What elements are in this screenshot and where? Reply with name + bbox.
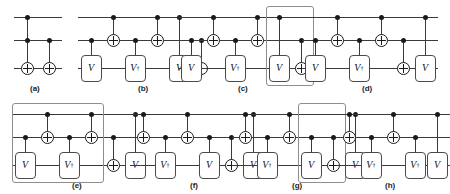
gate-box-v-dagger: V†: [125, 55, 146, 82]
control-dot: [369, 135, 374, 140]
cnot-target-icon: [251, 34, 264, 47]
control-dot: [163, 135, 168, 140]
control-dot: [185, 112, 190, 117]
control-dot: [357, 38, 362, 43]
control-dot: [89, 112, 94, 117]
control-dot: [391, 112, 396, 117]
control-dot: [309, 135, 314, 140]
cnot-target-icon: [137, 131, 150, 144]
control-dot: [287, 112, 292, 117]
cnot-target-icon: [331, 34, 344, 47]
control-dot: [189, 38, 194, 43]
circuit-panel-h: V†V†V(h): [336, 97, 450, 194]
circuit-panel-a: (a): [14, 0, 62, 97]
control-dot: [423, 15, 428, 20]
gate-box-v-dagger: V†: [155, 152, 176, 179]
gate-box-v-dagger: V†: [361, 152, 382, 179]
gate-box-v: V: [81, 55, 102, 82]
gate-box-v: V: [269, 55, 290, 82]
control-dot: [335, 15, 340, 20]
control-dot: [23, 135, 28, 140]
cnot-target-icon: [397, 62, 410, 75]
cnot-target-icon: [239, 131, 252, 144]
panel-caption-a: (a): [30, 84, 40, 93]
panel-caption-f: (f): [190, 181, 198, 190]
control-dot: [133, 38, 138, 43]
control-dot: [347, 112, 352, 117]
control-dot: [401, 38, 406, 43]
qubit-wire-1: [14, 17, 62, 18]
qubit-wire-2: [302, 40, 438, 41]
cnot-target-icon: [151, 34, 164, 47]
gate-box-v: V: [15, 152, 36, 179]
gate-box-v-dagger: V†: [225, 55, 246, 82]
control-dot: [141, 112, 146, 117]
control-dot: [277, 15, 282, 20]
control-dot: [155, 15, 160, 20]
control-dot: [243, 112, 248, 117]
control-dot: [255, 15, 260, 20]
control-dot: [233, 38, 238, 43]
cnot-target-icon: [207, 34, 220, 47]
gate-box-v-dagger: V†: [349, 55, 370, 82]
control-dot: [111, 135, 116, 140]
control-dot: [89, 38, 94, 43]
cnot-target-icon: [41, 131, 54, 144]
cnot-target-icon: [181, 131, 194, 144]
circuit-panel-e: VV†V(e): [12, 97, 148, 194]
circuit-panel-c: VV†V(c): [178, 0, 314, 97]
control-dot: [47, 38, 52, 43]
gate-box-v: V: [427, 152, 448, 179]
control-dot: [313, 38, 318, 43]
cnot-target-icon: [107, 34, 120, 47]
gate-box-v: V: [199, 152, 220, 179]
control-dot: [207, 135, 212, 140]
control-dot: [265, 135, 270, 140]
cnot-target-icon: [107, 159, 120, 172]
cnot-target-icon: [283, 131, 296, 144]
control-dot: [413, 135, 418, 140]
control-dot: [111, 15, 116, 20]
gate-box-v: V: [301, 152, 322, 179]
gate-box-v: V: [415, 55, 436, 82]
control-dot: [25, 38, 30, 43]
control-dot: [25, 15, 30, 20]
circuit-row-top: (a)VV†V(b)VV†V(c)VV†V(d): [0, 0, 436, 97]
panel-caption-e: (e): [72, 181, 82, 190]
cnot-target-icon: [21, 62, 34, 75]
gate-box-v-dagger: V†: [59, 152, 80, 179]
qubit-wire-1: [302, 17, 438, 18]
gate-box-v-dagger: V†: [257, 152, 278, 179]
cnot-target-icon: [85, 131, 98, 144]
cnot-target-icon: [387, 131, 400, 144]
panel-caption-b: (b): [138, 84, 148, 93]
control-dot: [67, 135, 72, 140]
cnot-target-icon: [343, 131, 356, 144]
qubit-wire-2: [14, 40, 62, 41]
gate-box-v: V: [305, 55, 326, 82]
panel-caption-c: (c): [238, 84, 248, 93]
panel-caption-h: (h): [385, 181, 395, 190]
cnot-target-icon: [43, 62, 56, 75]
panel-caption-d: (d): [362, 84, 372, 93]
control-dot: [45, 112, 50, 117]
gate-box-v-dagger: V†: [405, 152, 426, 179]
panel-caption-g: (g): [292, 181, 302, 190]
cnot-target-icon: [375, 34, 388, 47]
control-dot: [211, 15, 216, 20]
gate-connector: [27, 17, 28, 68]
circuit-panel-d: VV†V(d): [302, 0, 438, 97]
control-dot: [331, 135, 336, 140]
gate-box-v: V: [181, 55, 202, 82]
circuit-row-bottom: VV†V(e)V†VV(f)V†VV(g)V†V†V(h): [0, 97, 436, 194]
control-dot: [379, 15, 384, 20]
control-dot: [435, 112, 440, 117]
